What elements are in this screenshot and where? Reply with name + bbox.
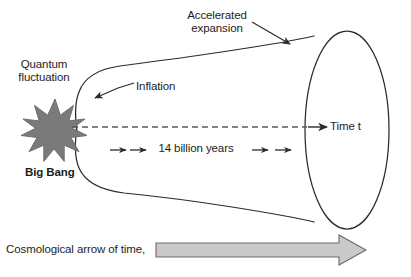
time-axis-label: Time t [330,120,361,133]
quantum-fluctuation-line-2: fluctuation [18,71,69,83]
big-bang-starburst-icon [21,99,87,161]
expansion-cone [75,36,314,222]
cosmological-arrow-of-time-label: Cosmological arrow of time, [6,243,145,256]
accelerated-expansion-line-1: Accelerated [187,9,247,21]
inflation-label: Inflation [136,80,175,93]
accelerated-expansion-label: Accelerated expansion [178,9,256,35]
cone-upper-edge [75,36,314,133]
quantum-fluctuation-line-1: Quantum [21,58,68,70]
accelerated-expansion-line-2: expansion [191,22,243,34]
accelerated-expansion-leader-arrow [252,22,290,44]
quantum-fluctuation-label: Quantum fluctuation [6,58,82,84]
inflation-leader-arrow [95,83,134,98]
cosmology-expansion-diagram [0,0,411,277]
cosmological-arrow-of-time-block-arrow [156,235,366,265]
cone-lower-edge [75,126,314,222]
big-bang-label: Big Bang [25,166,75,179]
duration-label: 14 billion years [148,142,244,155]
